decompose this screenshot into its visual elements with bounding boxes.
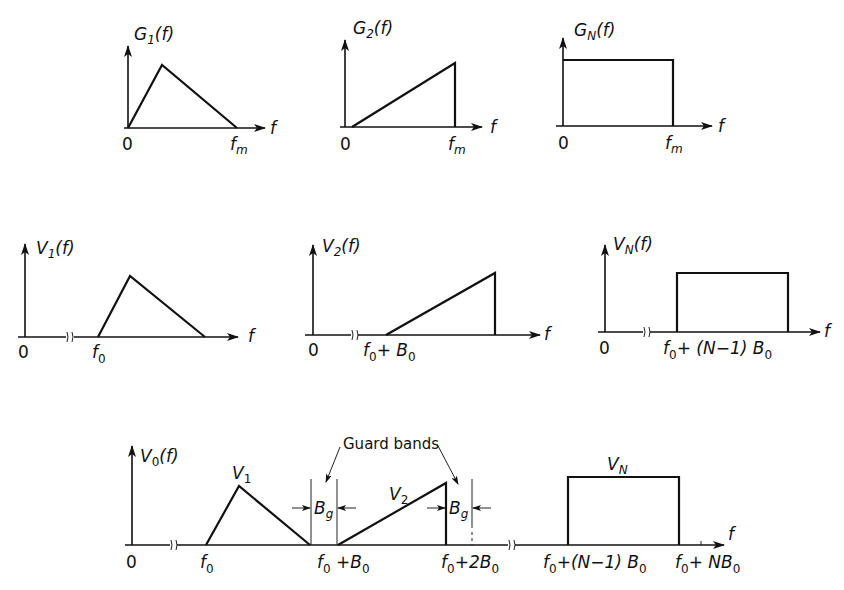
fm-tick: fm [665,133,683,156]
bg-label: Bg [449,498,469,521]
tick-f0: f0 [200,552,214,576]
axis-break-icon [67,332,73,342]
axis-break-icon [509,540,515,550]
f0-tick: f0 [92,342,106,366]
plot-vn: VN(f) f 0 f0+ (N−1) B0 [598,234,833,362]
origin-label: 0 [308,340,319,360]
fm-tick: fm [230,134,248,157]
axis-break-icon [352,330,358,340]
tick-f0-plus-nb0: f0+ NB0 [675,552,740,576]
y-axis-label: V0(f) [140,446,179,469]
v2-label: V2 [389,484,408,507]
plot-g2: G2(f) f 0 fm [340,18,499,157]
spectrum-rectangle [563,60,673,126]
plot-v1: V1(f) f 0 f0 [18,238,257,366]
spectrum-ramp [352,63,455,127]
tick-f0-plus-b0: f0 +B0 [317,552,370,576]
origin-label: 0 [599,338,610,358]
y-axis-label: VN(f) [613,234,653,257]
plot-gn: GN(f) f 0 fm [556,20,727,156]
v1-label: V1 [232,463,251,486]
vn-spectrum [568,477,679,545]
origin-label: 0 [18,342,29,362]
annotation-arrow-icon [437,444,458,484]
spectrum-rectangle [677,273,788,332]
spectrum-ramp [386,273,495,335]
x-axis-label: f [824,321,833,341]
x-axis-label: f [718,116,727,136]
f0-plus-b0-tick: f0+ B0 [363,340,416,364]
y-axis-label: V1(f) [36,238,75,261]
tick-f0-plus-n-minus-1-b0: f0+(N−1) B0 [543,552,647,576]
origin-label: 0 [558,133,569,153]
bg-label: Bg [314,498,334,521]
origin-label: 0 [126,552,137,572]
v1-spectrum [206,486,310,545]
x-axis-label: f [270,118,279,138]
y-axis-label: G2(f) [353,18,393,41]
tick-f0-plus-2b0: f0+2B0 [441,552,499,576]
guard-band-1: Bg [292,479,356,545]
axis-break-icon [171,540,177,550]
plot-v2: V2(f) f 0 f0+ B0 [305,236,553,364]
y-axis-label: G1(f) [134,24,174,47]
plot-v0-composite: V1 V2 VN Bg Bg Guard bands V0(f) f [125,435,740,576]
f0-plus-n-minus-1-b0-tick: f0+ (N−1) B0 [663,338,772,362]
y-axis-label: V2(f) [322,236,361,259]
x-axis-label: f [490,117,499,137]
x-axis-label: f [248,326,257,346]
x-axis-label: f [728,524,737,544]
annotation-arrow-icon [326,447,340,482]
origin-label: 0 [122,134,133,154]
fm-tick: fm [448,134,466,157]
vn-label: VN [607,454,628,477]
spectrum-triangle [98,276,205,337]
fdm-spectrum-diagram: G1(f) f 0 fm G2(f) f 0 fm GN(f) f 0 fm V… [0,0,844,590]
origin-label: 0 [340,134,351,154]
x-axis-label: f [544,324,553,344]
y-axis-label: GN(f) [574,20,615,43]
axis-break-icon [644,327,650,337]
guard-bands-annotation: Guard bands [343,435,439,453]
spectrum-triangle [128,65,237,128]
plot-g1: G1(f) f 0 fm [122,24,279,157]
